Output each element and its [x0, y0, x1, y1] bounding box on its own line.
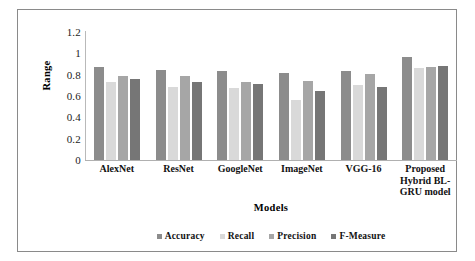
- bar-accuracy[interactable]: [341, 71, 351, 160]
- y-axis-tick-label: 1.2: [54, 27, 81, 38]
- bar-f-measure[interactable]: [438, 66, 448, 160]
- figure-container: Range 00.20.40.60.811.2 AlexNetResNetGoo…: [0, 0, 475, 261]
- x-axis-category-label: VGG-16: [333, 163, 395, 175]
- y-axis-tick-label: 0: [54, 155, 81, 166]
- bar-group: [271, 32, 333, 160]
- bar-f-measure[interactable]: [315, 91, 325, 160]
- bar-recall[interactable]: [229, 88, 239, 160]
- bar-group: [86, 32, 148, 160]
- y-axis-tick-label: 0.8: [54, 69, 81, 80]
- bar-precision[interactable]: [118, 76, 128, 160]
- legend-swatch-icon: [269, 234, 274, 239]
- legend-swatch-icon: [220, 234, 225, 239]
- bar-accuracy[interactable]: [217, 71, 227, 160]
- bar-groups: [86, 32, 456, 160]
- y-axis-tick-label: 0.6: [54, 91, 81, 102]
- legend-swatch-icon: [157, 234, 162, 239]
- x-axis-category-label: GoogleNet: [209, 163, 271, 175]
- bar-precision[interactable]: [303, 81, 313, 160]
- legend-item[interactable]: F-Measure: [331, 231, 385, 241]
- chart-frame: Range 00.20.40.60.811.2 AlexNetResNetGoo…: [17, 9, 457, 252]
- bar-recall[interactable]: [414, 68, 424, 160]
- y-axis-tick-label: 0.2: [54, 133, 81, 144]
- bar-f-measure[interactable]: [192, 82, 202, 160]
- x-axis-title: Models: [86, 202, 456, 213]
- plot-area: [86, 32, 456, 160]
- bar-precision[interactable]: [180, 76, 190, 160]
- bar-accuracy[interactable]: [94, 67, 104, 160]
- bar-f-measure[interactable]: [377, 87, 387, 160]
- bar-group: [209, 32, 271, 160]
- bar-accuracy[interactable]: [279, 73, 289, 160]
- x-axis-category-label: AlexNet: [86, 163, 148, 175]
- legend-swatch-icon: [331, 234, 336, 239]
- legend-label: Accuracy: [165, 231, 205, 241]
- x-axis-line: [85, 160, 457, 161]
- x-axis-category-label: Proposed Hybrid BL-GRU model: [394, 163, 456, 198]
- bar-recall[interactable]: [168, 87, 178, 160]
- legend-label: Recall: [228, 231, 255, 241]
- chart-legend: AccuracyRecallPrecisionF-Measure: [86, 231, 456, 241]
- bar-precision[interactable]: [241, 82, 251, 160]
- bar-precision[interactable]: [365, 74, 375, 160]
- bar-group: [394, 32, 456, 160]
- x-axis-category-label: ImageNet: [271, 163, 333, 175]
- legend-item[interactable]: Precision: [269, 231, 316, 241]
- legend-item[interactable]: Accuracy: [157, 231, 205, 241]
- bar-f-measure[interactable]: [130, 79, 140, 160]
- legend-label: F-Measure: [339, 231, 385, 241]
- bar-recall[interactable]: [353, 85, 363, 160]
- bar-recall[interactable]: [106, 82, 116, 160]
- y-axis-tick-label: 1: [54, 48, 81, 59]
- legend-item[interactable]: Recall: [220, 231, 255, 241]
- bar-group: [148, 32, 210, 160]
- bar-f-measure[interactable]: [253, 84, 263, 160]
- x-axis-category-labels: AlexNetResNetGoogleNetImageNetVGG-16Prop…: [86, 163, 456, 198]
- y-axis-title: Range: [41, 46, 52, 106]
- legend-label: Precision: [277, 231, 316, 241]
- x-axis-category-label: ResNet: [148, 163, 210, 175]
- bar-accuracy[interactable]: [156, 70, 166, 160]
- bar-group: [333, 32, 395, 160]
- y-axis-tick-label: 0.4: [54, 112, 81, 123]
- bar-accuracy[interactable]: [402, 57, 412, 160]
- bar-precision[interactable]: [426, 67, 436, 160]
- bar-recall[interactable]: [291, 100, 301, 160]
- y-axis-tick-labels: 00.20.40.60.811.2: [54, 32, 81, 160]
